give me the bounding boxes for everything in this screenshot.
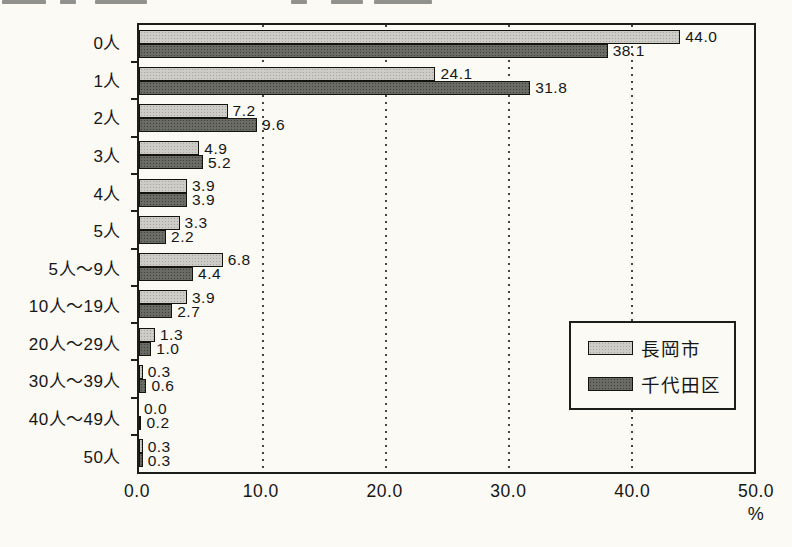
legend-swatch-nagaoka <box>588 341 633 355</box>
cropped-text-remnant <box>60 0 76 4</box>
x-axis: % 0.010.020.030.040.050.0 <box>137 481 756 537</box>
bar-line-nagaoka: 0.3 <box>139 439 754 453</box>
x-tick-label: 30.0 <box>490 481 526 502</box>
bar-group: 3.92.7 <box>139 286 754 323</box>
category-label: 10人〜19人 <box>0 286 129 324</box>
bar-line-nagaoka: 3.9 <box>139 179 754 193</box>
legend-label-chiyoda: 千代田区 <box>641 371 721 397</box>
category-tick <box>131 248 139 250</box>
x-axis-unit-label: % <box>748 504 765 525</box>
value-label: 0.2 <box>146 415 169 431</box>
bar-line-chiyoda: 4.4 <box>139 267 754 281</box>
category-label: 30人〜39人 <box>0 361 129 399</box>
category-axis: 0人1人2人3人4人5人5人〜9人10人〜19人20人〜29人30人〜39人40… <box>0 23 129 474</box>
bar-line-nagaoka: 7.2 <box>139 104 754 118</box>
bar-line-nagaoka: 3.3 <box>139 216 754 230</box>
category-tick <box>131 285 139 287</box>
bar-nagaoka <box>139 179 187 193</box>
bar-group: 3.93.9 <box>139 174 754 211</box>
bar-group: 0.30.3 <box>139 435 754 472</box>
bar-group: 6.84.4 <box>139 249 754 286</box>
bar-line-chiyoda: 9.6 <box>139 118 754 132</box>
bar-nagaoka <box>139 439 143 453</box>
value-label: 0.3 <box>148 453 171 469</box>
bar-line-chiyoda: 5.2 <box>139 155 754 169</box>
bar-group: 24.131.8 <box>139 62 754 99</box>
category-label: 20人〜29人 <box>0 324 129 362</box>
bar-line-chiyoda: 0.2 <box>139 416 754 430</box>
bar-line-nagaoka: 4.9 <box>139 141 754 155</box>
category-tick <box>131 434 139 436</box>
category-label: 2人 <box>0 98 129 136</box>
bar-group: 44.038.1 <box>139 25 754 62</box>
bar-nagaoka <box>139 365 143 379</box>
bar-chiyoda <box>139 342 151 356</box>
bar-line-chiyoda: 2.7 <box>139 304 754 318</box>
legend-item-chiyoda: 千代田区 <box>588 371 734 397</box>
value-label: 9.6 <box>262 117 285 133</box>
bar-chiyoda <box>139 379 146 393</box>
bar-chiyoda <box>139 44 608 58</box>
value-label: 4.4 <box>198 266 221 282</box>
legend: 長岡市 千代田区 <box>569 321 736 410</box>
category-tick <box>131 322 139 324</box>
value-label: 2.7 <box>177 304 200 320</box>
category-label: 4人 <box>0 173 129 211</box>
bar-line-nagaoka: 3.9 <box>139 290 754 304</box>
category-tick <box>131 359 139 361</box>
bar-nagaoka <box>139 67 435 81</box>
bar-group: 3.32.2 <box>139 211 754 248</box>
x-tick-label: 40.0 <box>614 481 650 502</box>
category-label: 5人 <box>0 211 129 249</box>
bar-chiyoda <box>139 193 187 207</box>
category-label: 1人 <box>0 61 129 99</box>
category-label: 50人 <box>0 436 129 474</box>
category-label: 0人 <box>0 23 129 61</box>
x-tick-label: 0.0 <box>124 481 150 502</box>
x-tick-label: 20.0 <box>367 481 403 502</box>
value-label: 2.2 <box>171 229 194 245</box>
bar-nagaoka <box>139 30 680 44</box>
cropped-text-remnant <box>374 0 432 4</box>
bar-chiyoda <box>139 230 166 244</box>
legend-item-nagaoka: 長岡市 <box>588 335 734 361</box>
category-tick <box>131 136 139 138</box>
category-label: 5人〜9人 <box>0 248 129 286</box>
legend-swatch-chiyoda <box>588 377 633 391</box>
bar-chiyoda <box>139 155 203 169</box>
value-label: 1.0 <box>156 341 179 357</box>
category-label: 3人 <box>0 136 129 174</box>
x-tick-label: 10.0 <box>243 481 279 502</box>
bar-group: 4.95.2 <box>139 137 754 174</box>
cropped-text-remnant <box>291 0 307 4</box>
value-label: 5.2 <box>208 155 231 171</box>
value-label: 44.0 <box>685 29 717 45</box>
bar-line-nagaoka: 6.8 <box>139 253 754 267</box>
bar-chiyoda <box>139 453 143 467</box>
bar-line-chiyoda: 2.2 <box>139 230 754 244</box>
category-tick <box>131 61 139 63</box>
bar-nagaoka <box>139 141 199 155</box>
scanned-page: 0人1人2人3人4人5人5人〜9人10人〜19人20人〜29人30人〜39人40… <box>0 0 792 547</box>
bar-line-nagaoka: 24.1 <box>139 67 754 81</box>
category-tick <box>131 210 139 212</box>
bar-nagaoka <box>139 104 228 118</box>
value-label: 0.6 <box>151 378 174 394</box>
value-label: 38.1 <box>613 43 645 59</box>
cropped-text-remnant <box>331 0 363 4</box>
category-tick <box>131 173 139 175</box>
bar-line-nagaoka: 44.0 <box>139 30 754 44</box>
category-label: 40人〜49人 <box>0 399 129 437</box>
bar-nagaoka <box>139 328 155 342</box>
bar-chiyoda <box>139 304 172 318</box>
value-label: 6.8 <box>228 252 251 268</box>
bar-line-chiyoda: 38.1 <box>139 44 754 58</box>
bar-chiyoda <box>139 267 193 281</box>
value-label: 31.8 <box>535 80 567 96</box>
category-tick <box>131 98 139 100</box>
value-label: 24.1 <box>440 66 472 82</box>
bar-group: 7.29.6 <box>139 99 754 136</box>
cropped-text-remnant <box>95 0 147 4</box>
bar-line-chiyoda: 31.8 <box>139 81 754 95</box>
value-label: 7.2 <box>233 103 256 119</box>
